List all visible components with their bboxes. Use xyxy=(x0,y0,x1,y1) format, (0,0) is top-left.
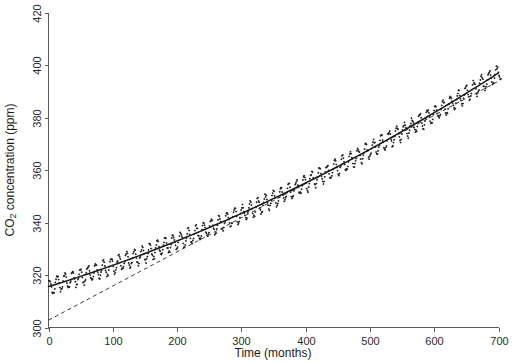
x-tick-label: 300 xyxy=(232,335,250,347)
chart-canvas: 300320340360380400420 010020030040050060… xyxy=(0,0,516,363)
y-axis-tick-labels: 300320340360380400420 xyxy=(31,4,43,337)
y-tick-label: 380 xyxy=(31,109,43,127)
y-axis-title-prefix: CO xyxy=(3,219,17,237)
x-tick-label: 200 xyxy=(168,335,186,347)
x-axis-tick-marks xyxy=(50,328,500,332)
y-tick-label: 340 xyxy=(31,214,43,232)
y-tick-label: 420 xyxy=(31,4,43,22)
y-tick-label: 360 xyxy=(31,161,43,179)
co2-concentration-chart: 300320340360380400420 010020030040050060… xyxy=(0,0,516,363)
observed-data-points xyxy=(49,66,502,294)
x-tick-label: 600 xyxy=(425,335,443,347)
y-axis-title-suffix: concentration (ppm) xyxy=(3,103,17,213)
y-tick-label: 320 xyxy=(31,266,43,284)
x-tick-label: 100 xyxy=(104,335,122,347)
linear-trend-dashed-line xyxy=(49,81,499,320)
x-axis-title: Time (months) xyxy=(235,346,312,360)
y-tick-label: 400 xyxy=(31,56,43,74)
x-axis-tick-labels: 0100200300400500600700 xyxy=(46,335,508,347)
data-point-cloud xyxy=(49,66,502,294)
y-tick-label: 300 xyxy=(31,319,43,337)
y-axis-title: CO2 concentration (ppm) xyxy=(3,103,18,236)
x-tick-label: 500 xyxy=(361,335,379,347)
x-tick-label: 700 xyxy=(490,335,508,347)
fitted-trend-solid-line xyxy=(49,73,499,287)
y-axis-tick-marks xyxy=(45,14,49,329)
x-tick-label: 0 xyxy=(46,335,52,347)
y-axis-title-group: CO2 concentration (ppm) xyxy=(3,103,18,236)
x-tick-label: 400 xyxy=(297,335,315,347)
